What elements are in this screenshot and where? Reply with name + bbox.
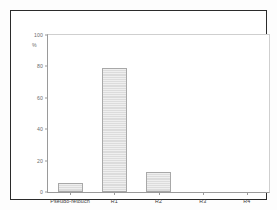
chart-frame: % 020406080100 Pseudo-retouchR1R2R3R4	[10, 10, 267, 200]
x-axis-tick-label: R1	[111, 198, 118, 204]
y-axis-tick-mark	[45, 192, 48, 193]
plot-area: 020406080100 Pseudo-retouchR1R2R3R4	[47, 34, 270, 193]
x-axis-tick-label: R3	[199, 198, 206, 204]
y-axis-tick-mark	[45, 35, 48, 36]
x-axis-tick-mark	[247, 192, 248, 195]
y-axis-tick-mark	[45, 97, 48, 98]
y-axis-tick-mark	[45, 66, 48, 67]
y-axis-tick-mark	[45, 129, 48, 130]
x-axis-tick-mark	[70, 192, 71, 195]
x-axis-tick-mark	[114, 192, 115, 195]
y-axis-unit-label: %	[32, 42, 37, 48]
bar	[146, 172, 171, 192]
x-axis-tick-mark	[159, 192, 160, 195]
x-axis-tick-label: R2	[155, 198, 162, 204]
x-axis-tick-mark	[203, 192, 204, 195]
y-axis-tick-mark	[45, 160, 48, 161]
bar	[58, 183, 83, 192]
x-axis-tick-label: Pseudo-retouch	[50, 198, 89, 204]
bar	[102, 68, 127, 192]
figure-canvas: % 020406080100 Pseudo-retouchR1R2R3R4	[0, 0, 277, 210]
x-axis-tick-label: R4	[243, 198, 250, 204]
